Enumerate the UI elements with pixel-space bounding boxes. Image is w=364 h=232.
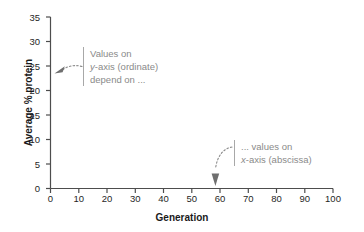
x-tick-label: 100: [318, 193, 348, 204]
y-tick-label: 25: [0, 61, 40, 72]
annotation-line-remainder: -axis (abscissa): [246, 154, 312, 165]
y-axis-title: Average % protein: [23, 23, 34, 183]
y-tick-label: 15: [0, 110, 40, 121]
x-tick-label: 0: [36, 193, 66, 204]
y-annotation-line-1: Values on: [90, 47, 158, 60]
x-axis-annotation-arrow: [212, 147, 232, 186]
y-tick-label: 30: [0, 36, 40, 47]
y-tick-label: 0: [0, 183, 40, 194]
x-axis-annotation: ... values on x-axis (abscissa): [234, 140, 312, 166]
y-tick-label: 10: [0, 134, 40, 145]
x-tick-label: 80: [262, 193, 292, 204]
chart-figure: 0 5 10 15 20 25 30 35 0 10 20 30 40 50 6…: [0, 0, 364, 232]
y-annotation-line-3: depend on ...: [90, 73, 158, 86]
x-tick-label: 40: [149, 193, 179, 204]
x-tick-label: 90: [290, 193, 320, 204]
y-annotation-line-2: y-axis (ordinate): [90, 60, 158, 73]
x-annotation-line-2: x-axis (abscissa): [241, 153, 312, 166]
x-axis-title: Generation: [0, 212, 364, 223]
y-axis-annotation: Values on y-axis (ordinate) depend on ..…: [83, 47, 158, 86]
x-tick-label: 30: [120, 193, 150, 204]
y-tick-label: 5: [0, 159, 40, 170]
x-tick-label: 20: [92, 193, 122, 204]
x-tick-label: 60: [205, 193, 235, 204]
y-axis-annotation-arrow: [55, 66, 83, 74]
x-annotation-line-1: ... values on: [241, 140, 312, 153]
x-tick-label: 50: [177, 193, 207, 204]
y-tick-label: 35: [0, 12, 40, 23]
y-axis-ticks: [46, 17, 51, 189]
annotation-line-remainder: -axis (ordinate): [95, 61, 158, 72]
x-tick-label: 70: [233, 193, 263, 204]
y-tick-label: 20: [0, 85, 40, 96]
x-tick-label: 10: [64, 193, 94, 204]
